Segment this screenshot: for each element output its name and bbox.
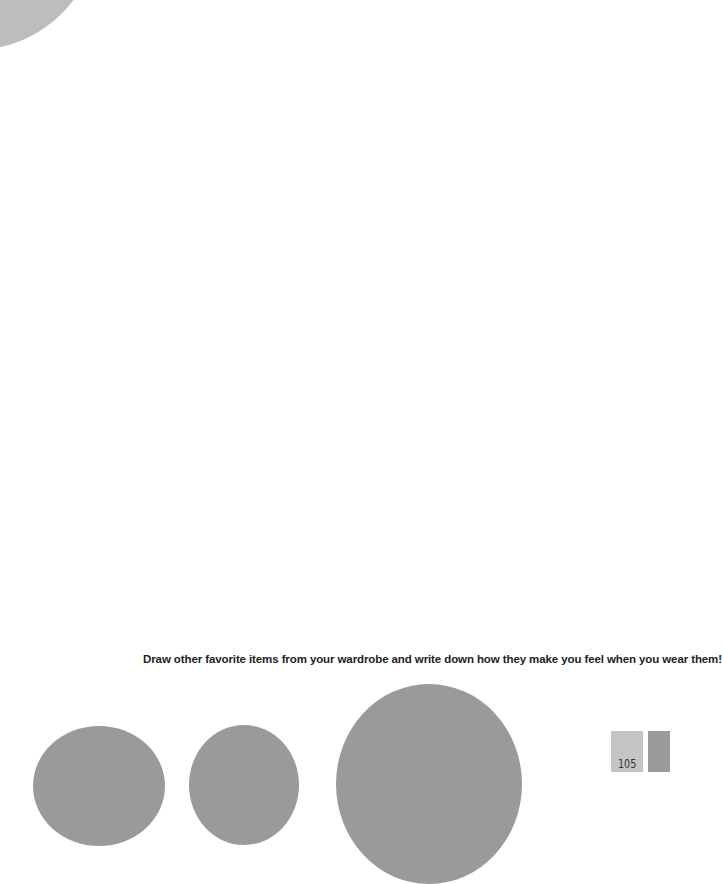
decorative-circle-large [336, 684, 522, 884]
page-number: 105 [618, 757, 636, 771]
drawing-prompt-text: Draw other favorite items from your ward… [143, 653, 722, 665]
decorative-circle-small-left [33, 726, 165, 846]
decorative-circle-small-middle [189, 725, 299, 845]
page-tab-dark [648, 731, 670, 772]
decorative-corner-circle [0, 0, 100, 50]
